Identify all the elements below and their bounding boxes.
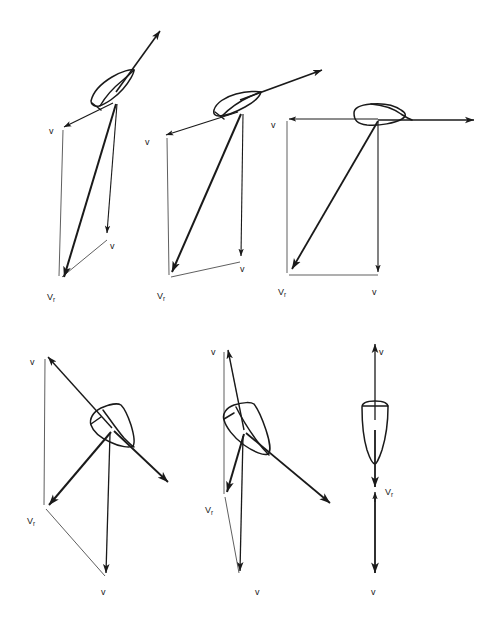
label-true-wind-1: v <box>49 126 54 136</box>
label-true-wind-6: v <box>379 347 384 357</box>
label-true-wind-3: v <box>271 120 276 130</box>
label-boat-speed-5: v <box>255 587 260 597</box>
label-boat-speed-3: v <box>372 287 377 297</box>
figure-canvas: v v V r v v <box>0 0 494 638</box>
label-boat-speed-1: v <box>110 241 115 251</box>
label-boat-speed-2: v <box>240 264 245 274</box>
figure-background <box>0 0 494 638</box>
label-boat-speed-6: v <box>371 587 376 597</box>
sailing-vector-diagram-figure: v v V r v v <box>0 0 494 638</box>
label-true-wind-4: v <box>30 357 35 367</box>
label-true-wind-2: v <box>145 137 150 147</box>
label-true-wind-5: v <box>211 347 216 357</box>
label-boat-speed-4: v <box>101 587 106 597</box>
